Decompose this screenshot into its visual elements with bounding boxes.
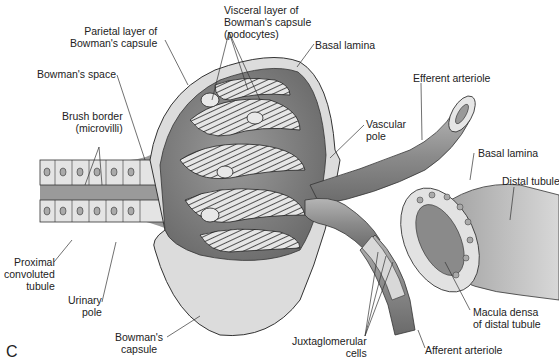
label-basal-lamina-right: Basal lamina (478, 147, 538, 159)
label-parietal-layer: Parietal layer of Bowman's capsule (70, 25, 157, 49)
panel-letter: C (6, 343, 18, 361)
renal-corpuscle-diagram: Parietal layer of Bowman's capsule Visce… (0, 0, 559, 363)
label-brush-border: Brush border (microvilli) (62, 110, 123, 134)
label-macula-densa: Macula densa of distal tubule (473, 306, 541, 330)
label-bowmans-space: Bowman's space (37, 68, 116, 80)
label-afferent-arteriole: Afferent arteriole (425, 344, 502, 356)
label-visceral-layer: Visceral layer of Bowman's capsule (podo… (224, 4, 311, 40)
label-efferent-arteriole: Efferent arteriole (413, 72, 490, 84)
label-vascular-pole: Vascular pole (366, 118, 406, 142)
label-basal-lamina-top: Basal lamina (315, 39, 375, 51)
label-urinary-pole: Urinary pole (68, 294, 102, 318)
label-distal-tubule: Distal tubule (502, 175, 559, 187)
label-juxtaglomerular-cells: Juxtaglomerular cells (292, 335, 367, 359)
label-bowmans-capsule: Bowman's capsule (115, 331, 163, 355)
label-proximal-tubule: Proximal convoluted tubule (4, 256, 55, 292)
